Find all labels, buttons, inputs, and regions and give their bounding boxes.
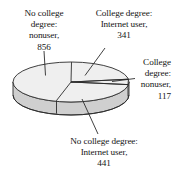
slice-label-college-nonuser: College degree: nonuser, 117 — [108, 57, 171, 102]
slice-label-no-college-internet: No college degree: Internet user, 441 — [40, 136, 168, 170]
pie-chart-figure: No college degree: nonuser, 856 College … — [0, 0, 173, 175]
slice-label-no-college-nonuser: No college degree: nonuser, 856 — [2, 8, 86, 53]
slice-divider-top — [71, 62, 72, 82]
slice-label-college-internet: College degree: Internet user, 341 — [78, 8, 170, 42]
